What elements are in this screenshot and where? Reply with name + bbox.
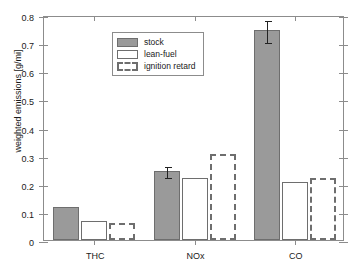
error-cap-bottom bbox=[165, 178, 172, 179]
x-tick: THC bbox=[94, 240, 95, 245]
error-cap-bottom bbox=[265, 43, 272, 44]
bar-thc-lean-fuel bbox=[81, 221, 107, 240]
x-tick-label: CO bbox=[289, 251, 303, 261]
legend-item-ignition-retard: ignition retard bbox=[117, 60, 199, 72]
error-cap-top bbox=[265, 21, 272, 22]
bar-nox-lean-fuel bbox=[182, 178, 208, 240]
bar-thc-stock bbox=[53, 207, 79, 240]
y-tick bbox=[44, 158, 48, 159]
x-tick-top bbox=[94, 17, 95, 21]
bar-chart-figure: weighted emissions [g/mi] 00.10.20.30.40… bbox=[0, 0, 356, 272]
y-tick-label: 0.3 bbox=[21, 154, 34, 164]
legend-item-stock: stock bbox=[117, 36, 199, 48]
y-tick bbox=[44, 242, 48, 243]
y-tick-label: 0.7 bbox=[21, 41, 34, 51]
y-tick bbox=[343, 214, 348, 215]
y-tick bbox=[44, 45, 48, 46]
y-tick bbox=[343, 242, 348, 243]
legend-item-lean-fuel: lean-fuel bbox=[117, 48, 199, 60]
y-tick bbox=[44, 73, 48, 74]
y-tick bbox=[44, 186, 48, 187]
x-tick: NOx bbox=[195, 240, 196, 245]
y-tick-label: 0.1 bbox=[21, 210, 34, 220]
x-tick-label: NOx bbox=[187, 251, 205, 261]
bar-co-lean-fuel bbox=[282, 182, 308, 240]
y-tick-label: 0.8 bbox=[21, 13, 34, 23]
plot-area: 00.10.20.30.40.50.60.70.8 THCNOxCO stock… bbox=[43, 16, 344, 241]
x-tick-top bbox=[195, 17, 196, 21]
y-tick bbox=[343, 186, 348, 187]
bar-thc-ignition-retard bbox=[109, 223, 135, 240]
legend-label-lean-fuel: lean-fuel bbox=[144, 49, 177, 59]
error-bar-co bbox=[267, 21, 268, 45]
bar-co-ignition-retard bbox=[310, 178, 336, 240]
y-tick bbox=[343, 45, 348, 46]
bar-nox-stock bbox=[154, 171, 180, 240]
y-tick bbox=[343, 101, 348, 102]
y-tick-label: 0.5 bbox=[21, 97, 34, 107]
legend-swatch-lean-fuel-icon bbox=[117, 50, 138, 59]
y-tick bbox=[343, 73, 348, 74]
y-tick bbox=[44, 130, 48, 131]
y-tick bbox=[44, 101, 48, 102]
y-tick bbox=[343, 130, 348, 131]
legend-label-ignition-retard: ignition retard bbox=[144, 61, 196, 71]
x-tick: CO bbox=[295, 240, 296, 245]
error-cap-top bbox=[165, 167, 172, 168]
error-bar-nox bbox=[167, 167, 168, 178]
y-tick bbox=[44, 17, 48, 18]
y-tick bbox=[343, 158, 348, 159]
y-tick bbox=[44, 214, 48, 215]
y-tick-label: 0.4 bbox=[21, 126, 34, 136]
y-tick-label: 0.6 bbox=[21, 69, 34, 79]
bar-nox-ignition-retard bbox=[210, 154, 236, 240]
legend-swatch-ignition-retard-icon bbox=[117, 62, 138, 71]
legend-label-stock: stock bbox=[144, 37, 164, 47]
x-tick-label: THC bbox=[86, 251, 105, 261]
x-tick-top bbox=[295, 17, 296, 21]
y-tick-label: 0 bbox=[29, 238, 34, 248]
legend-swatch-stock-icon bbox=[117, 38, 138, 47]
y-tick bbox=[343, 17, 348, 18]
bar-co-stock bbox=[254, 30, 280, 240]
y-tick-label: 0.2 bbox=[21, 182, 34, 192]
legend: stock lean-fuel ignition retard bbox=[112, 32, 204, 76]
